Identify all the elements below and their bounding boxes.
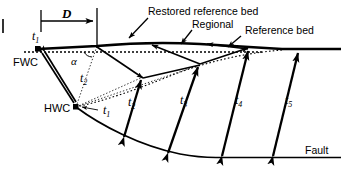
throw-label-t1-hwc: t1 — [103, 103, 110, 119]
hwc-point-marker — [73, 104, 79, 110]
throw-label-subscript: 5 — [288, 100, 292, 109]
throw-label-t2-upper: t2 — [80, 71, 87, 87]
t1-hwc-leader — [82, 107, 98, 110]
throw-label-subscript: 2 — [83, 78, 87, 87]
hangingwall-link-lines — [97, 44, 248, 78]
reference-bed-label: Reference bed — [245, 24, 314, 36]
throw-label-subscript: 1 — [106, 110, 110, 119]
throw-label-subscript: 2 — [131, 102, 135, 111]
throw-label-t4-arrow: t4 — [235, 93, 242, 109]
throw-label-subscript: 1 — [35, 36, 39, 45]
alpha-label: α — [71, 55, 77, 67]
regional-label: Regional — [192, 18, 233, 30]
fault-cross-section-figure: D α FWC HWC — [0, 0, 343, 169]
fwc-label: FWC — [13, 56, 38, 68]
throw-label-t3-arrow: t3 — [180, 93, 187, 109]
link-t3-to-bed-b — [200, 48, 248, 64]
fault-surface — [76, 107, 341, 158]
throw-label-subscript: 4 — [238, 100, 242, 109]
displacement-label: D — [61, 6, 72, 21]
throw-label-t1-top: t1 — [32, 29, 39, 45]
leader-regional — [181, 30, 192, 44]
link-t3-to-bed-a — [152, 45, 200, 64]
throw-arrow-group — [124, 51, 298, 156]
throw-label-t2-arrow: t2 — [128, 95, 135, 111]
hwc-label: HWC — [44, 102, 70, 114]
leader-restored-reference-bed — [129, 18, 148, 38]
throw-label-subscript: 3 — [182, 100, 187, 109]
t3-throw-arrow — [168, 67, 198, 153]
fault-label: Fault — [305, 144, 328, 156]
restored-reference-bed-curve — [76, 50, 282, 107]
fwc-point-marker — [35, 46, 41, 52]
restored-reference-bed-label: Restored reference bed — [148, 5, 258, 17]
hangingwall-reference-bed — [38, 43, 341, 49]
link-t2-to-t3 — [143, 65, 200, 78]
t1-throw-arrow — [42, 53, 74, 103]
diagram-canvas: D α FWC HWC — [0, 0, 343, 169]
